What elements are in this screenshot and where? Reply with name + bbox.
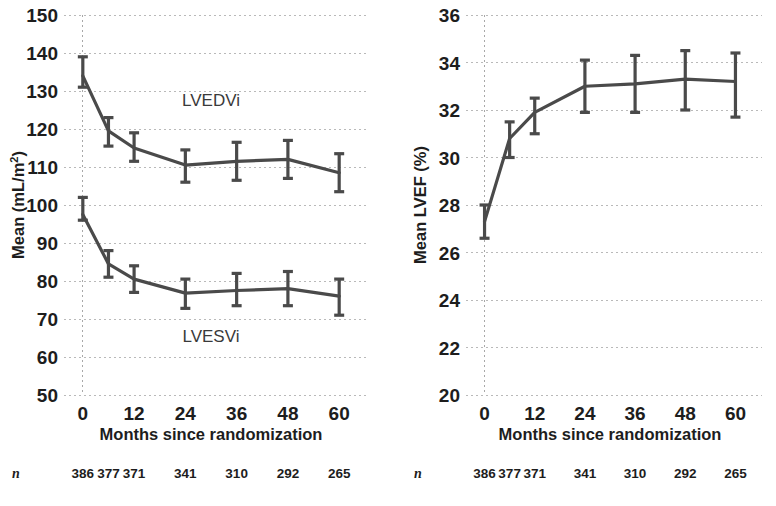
ytick-group-right: 202224262830323436	[439, 5, 461, 406]
n-row-value: 386	[473, 466, 496, 481]
y-axis-tick-label: 130	[26, 81, 58, 102]
n-row-value: 371	[123, 466, 146, 481]
y-axis-tick-label: 32	[439, 100, 460, 121]
n-row-label: n	[414, 466, 422, 481]
y-axis-tick-label: 120	[26, 119, 58, 140]
n-row-group-left: n386377371341310292265	[12, 466, 351, 481]
y-axis-tick-label: 70	[37, 309, 58, 330]
xtick-group-right: 01224364860	[479, 403, 746, 424]
x-axis-tick-label: 12	[124, 403, 145, 424]
x-axis-tick-label: 48	[277, 403, 298, 424]
y-axis-title-main: Mean (mL/m	[9, 163, 27, 259]
y-axis-title-tail: )	[9, 151, 27, 157]
x-axis-tick-label: 0	[479, 403, 490, 424]
n-row-value: 341	[174, 466, 197, 481]
x-axis-tick-label: 36	[226, 403, 247, 424]
series-line-lvef	[485, 79, 736, 222]
x-axis-tick-label: 24	[175, 403, 197, 424]
n-row-value: 341	[574, 466, 597, 481]
chart-panel-lvedvi-lvesvi: 5060708090100110120130140150 01224364860…	[0, 0, 400, 506]
chart-panel-lvef: 202224262830323436 01224364860 Mean LVEF…	[400, 0, 776, 506]
y-axis-tick-label: 22	[439, 338, 460, 359]
y-axis-tick-label: 24	[439, 290, 461, 311]
chart-svg-right: 202224262830323436 01224364860 Mean LVEF…	[400, 0, 776, 506]
y-axis-tick-label: 28	[439, 195, 460, 216]
y-axis-tick-label: 90	[37, 233, 58, 254]
series-group-right	[480, 51, 741, 239]
y-axis-title: Mean LVEF (%)	[411, 146, 429, 264]
n-row-value: 292	[277, 466, 300, 481]
n-row-group-right: n386377371341310292265	[414, 466, 747, 481]
grid-group-right	[466, 15, 762, 395]
series-annotation-lvesvi: LVESVi	[182, 327, 239, 346]
x-axis-tick-label: 24	[574, 403, 596, 424]
x-axis-title: Months since randomization	[499, 425, 722, 443]
x-axis-title: Months since randomization	[100, 425, 323, 443]
figure-container: 5060708090100110120130140150 01224364860…	[0, 0, 776, 506]
y-axis-tick-label: 110	[27, 157, 58, 178]
y-axis-tick-label: 150	[26, 5, 58, 26]
n-row-value: 292	[674, 466, 697, 481]
y-axis-tick-label: 30	[439, 148, 460, 169]
n-row-value: 377	[498, 466, 521, 481]
y-axis-tick-label: 100	[26, 195, 58, 216]
n-row-value: 386	[72, 466, 95, 481]
x-axis-tick-label: 48	[675, 403, 696, 424]
n-row-value: 310	[225, 466, 248, 481]
n-row-label: n	[12, 466, 20, 481]
series-line-lvesvi	[83, 215, 339, 297]
y-axis-tick-label: 60	[37, 347, 58, 368]
x-axis-tick-label: 36	[625, 403, 646, 424]
y-axis-title: Mean (mL/m2)	[8, 151, 27, 259]
y-axis-tick-label: 36	[439, 5, 460, 26]
y-axis-tick-label: 50	[37, 385, 58, 406]
n-row-value: 265	[724, 466, 747, 481]
x-axis-tick-label: 60	[725, 403, 746, 424]
x-axis-tick-label: 60	[329, 403, 350, 424]
n-row-value: 377	[97, 466, 120, 481]
y-axis-tick-label: 140	[26, 43, 58, 64]
x-axis-tick-label: 0	[78, 403, 89, 424]
n-row-value: 310	[624, 466, 647, 481]
n-row-value: 371	[523, 466, 546, 481]
series-annotation-lvedvi: LVEDVi	[182, 91, 240, 110]
y-axis-tick-label: 20	[439, 385, 460, 406]
n-row-value: 265	[328, 466, 351, 481]
y-axis-tick-label: 26	[439, 243, 460, 264]
xtick-group-left: 01224364860	[78, 403, 350, 424]
y-axis-tick-label: 34	[439, 53, 461, 74]
y-axis-tick-label: 80	[37, 271, 58, 292]
x-axis-tick-label: 12	[524, 403, 545, 424]
ytick-group-left: 5060708090100110120130140150	[26, 5, 58, 406]
chart-svg-left: 5060708090100110120130140150 01224364860…	[0, 0, 400, 506]
